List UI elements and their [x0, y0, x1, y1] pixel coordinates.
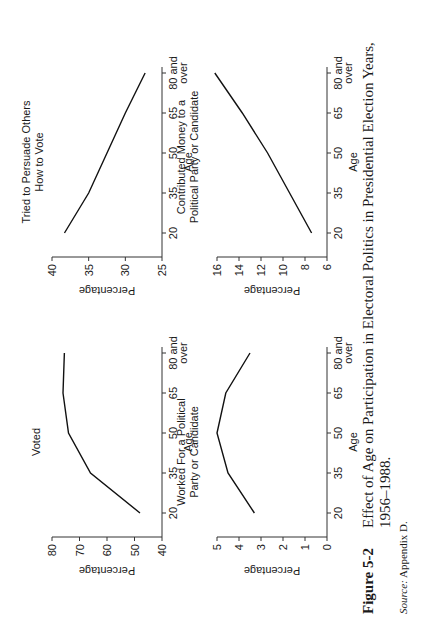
y-tick-label: 5: [211, 544, 223, 550]
y-tick-label: 2: [277, 544, 289, 550]
x-tick-label: 50: [332, 147, 344, 159]
y-tick-label: 60: [101, 544, 113, 556]
y-tick-label: 80: [46, 544, 58, 556]
x-tick-label: 35: [332, 467, 344, 479]
y-tick-label: 10: [277, 264, 289, 276]
source-label: Source:: [397, 580, 409, 614]
y-tick-label: 40: [156, 544, 168, 556]
data-line: [64, 73, 145, 233]
line-chart: 25303540Percentage2035506580 andoverAge: [20, 42, 180, 302]
y-tick-label: 1: [299, 544, 311, 550]
y-axis-label: Percentage: [79, 285, 135, 297]
x-tick-label: 20: [332, 227, 344, 239]
y-tick-label: 3: [255, 544, 267, 550]
x-tick-label: 20: [332, 507, 344, 519]
x-axis-label: Age: [347, 432, 359, 452]
figure-caption: Figure 5-2 Effect of Age on Participatio…: [360, 14, 409, 614]
chart-worked: Worked For a Political Party or Candidat…: [185, 322, 345, 582]
y-axis-label: Percentage: [244, 285, 300, 297]
x-tick-label: 50: [332, 427, 344, 439]
x-tick-label: 35: [332, 187, 344, 199]
y-tick-label: 35: [83, 264, 95, 276]
data-line: [63, 353, 140, 513]
line-chart: 6810121416Percentage2035506580 andoverAg…: [185, 42, 345, 302]
chart-voted: Voted 4050607080Percentage2035506580 and…: [20, 322, 180, 582]
title-text: 1956–1988.: [377, 457, 393, 528]
x-tick-label: over: [342, 62, 354, 84]
y-tick-label: 70: [74, 544, 86, 556]
x-tick-label: over: [342, 342, 354, 364]
figure-page: Voted 4050607080Percentage2035506580 and…: [0, 0, 427, 622]
y-tick-label: 30: [119, 264, 131, 276]
x-axis-label: Age: [347, 152, 359, 172]
figure-title: Effect of Age on Participation in Electo…: [360, 14, 394, 528]
source-text: Appendix D.: [397, 521, 409, 578]
data-line: [215, 73, 312, 233]
chart-contributed: Contributed Money to a Political Party o…: [185, 42, 345, 302]
caption-line: Figure 5-2 Effect of Age on Participatio…: [360, 14, 394, 614]
y-axis-label: Percentage: [244, 565, 300, 577]
y-tick-label: 40: [46, 264, 58, 276]
chart-persuade: Tried to Persuade Others How to Vote 253…: [20, 42, 180, 302]
line-chart: 012345Percentage2035506580 andoverAge: [185, 322, 345, 582]
y-tick-label: 50: [129, 544, 141, 556]
y-tick-label: 25: [156, 264, 168, 276]
y-tick-label: 0: [321, 544, 333, 550]
x-tick-label: 65: [332, 107, 344, 119]
figure-source: Source: Appendix D.: [397, 14, 409, 614]
data-line: [217, 353, 254, 513]
y-tick-label: 14: [233, 264, 245, 276]
line-chart: 4050607080Percentage2035506580 andoverAg…: [20, 322, 180, 582]
y-tick-label: 16: [211, 264, 223, 276]
title-text: Effect of Age on Participation in Electo…: [360, 42, 376, 528]
y-tick-label: 12: [255, 264, 267, 276]
y-axis-label: Percentage: [79, 565, 135, 577]
y-tick-label: 8: [299, 264, 311, 270]
figure-label: Figure 5-2: [360, 528, 394, 614]
x-tick-label: 65: [332, 387, 344, 399]
y-tick-label: 6: [321, 264, 333, 270]
y-tick-label: 4: [233, 544, 245, 550]
